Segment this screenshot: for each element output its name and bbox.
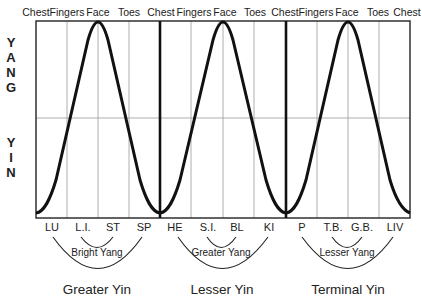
yin-yang-meridian-diagram: Chest Fingers Face Toes Chest Fingers Fa… — [0, 0, 422, 307]
meridian-label: S.I. — [200, 221, 217, 233]
meridian-label: ST — [106, 221, 120, 233]
meridian-label: L.I. — [75, 221, 90, 233]
svg-text:I: I — [9, 150, 13, 165]
outer-pair-label: Terminal Yin — [311, 282, 385, 297]
meridian-label: KI — [264, 221, 274, 233]
meridian-label: T.B. — [324, 221, 343, 233]
meridian-label: P — [298, 221, 305, 233]
meridian-label: SP — [137, 221, 152, 233]
meridian-label: LIV — [387, 221, 404, 233]
top-label: Chest — [147, 6, 175, 18]
top-label: Fingers — [298, 6, 333, 18]
grid — [36, 21, 410, 218]
top-label: Face — [213, 6, 237, 18]
meridian-label: G.B. — [351, 221, 373, 233]
top-label: Toes — [367, 6, 389, 18]
svg-text:Y: Y — [7, 135, 16, 150]
top-label: Face — [86, 6, 110, 18]
svg-text:N: N — [6, 65, 15, 80]
meridian-label: HE — [167, 221, 182, 233]
top-label: Fingers — [49, 6, 84, 18]
yin-side-label: Y I N — [6, 135, 15, 180]
top-label: Fingers — [176, 6, 211, 18]
svg-text:Y: Y — [7, 35, 16, 50]
svg-text:N: N — [6, 165, 15, 180]
meridian-label: BL — [230, 221, 243, 233]
inner-pair-label: Greater Yang — [191, 247, 250, 258]
svg-text:G: G — [6, 80, 16, 95]
top-label: Chest — [271, 6, 299, 18]
outer-pair-label: Lesser Yin — [190, 282, 253, 297]
top-label: Toes — [118, 6, 140, 18]
svg-text:A: A — [6, 50, 16, 65]
top-label: Face — [335, 6, 359, 18]
outer-pair-label: Greater Yin — [63, 282, 131, 297]
top-label: Toes — [244, 6, 266, 18]
inner-pair-label: Bright Yang — [71, 247, 122, 258]
top-label: Chest — [22, 6, 50, 18]
top-label: Chest — [393, 6, 421, 18]
meridian-labels: LU L.I. ST SP HE S.I. BL KI P T.B. G.B. … — [45, 221, 404, 233]
meridian-label: LU — [45, 221, 59, 233]
inner-pair-label: Lesser Yang — [319, 247, 374, 258]
yang-side-label: Y A N G — [6, 35, 16, 95]
top-labels: Chest Fingers Face Toes Chest Fingers Fa… — [22, 6, 421, 18]
